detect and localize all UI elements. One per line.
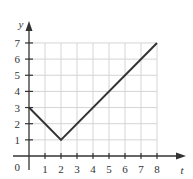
x-tick-label: 2: [58, 163, 64, 175]
x-tick-label: 3: [74, 163, 80, 175]
tick-labels: 1234567812345670ty: [15, 18, 185, 176]
grid: [29, 43, 157, 156]
y-tick-label: 4: [15, 85, 21, 97]
y-tick-label: 5: [15, 69, 21, 81]
x-tick-label: 8: [154, 163, 160, 175]
x-tick-label: 1: [42, 163, 48, 175]
y-axis-label: y: [18, 18, 24, 30]
line-chart: 1234567812345670ty: [0, 0, 193, 179]
x-tick-label: 4: [90, 163, 96, 175]
y-tick-label: 7: [15, 37, 21, 49]
y-tick-label: 2: [15, 118, 21, 130]
origin-label: 0: [15, 161, 21, 173]
x-tick-label: 7: [138, 163, 144, 175]
x-axis-label: t: [180, 164, 184, 176]
y-tick-label: 1: [15, 134, 21, 146]
y-tick-label: 6: [15, 53, 21, 65]
x-tick-label: 5: [106, 163, 112, 175]
x-tick-label: 6: [122, 163, 128, 175]
y-tick-label: 3: [15, 102, 21, 114]
